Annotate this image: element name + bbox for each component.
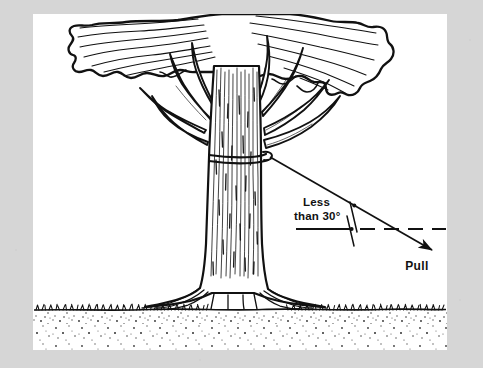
soil-surface-speckle <box>33 311 447 324</box>
ground-line <box>34 309 446 310</box>
tree-pull-angle-illustration: Less than 30° Pull <box>0 0 483 368</box>
pull-label: Pull <box>405 259 429 273</box>
angle-dot-on-pull-line <box>352 204 356 208</box>
angle-label-line2: than 30° <box>294 210 341 222</box>
angle-label-line1: Less <box>303 196 330 208</box>
angle-dot-on-reference-line <box>350 227 354 231</box>
figure-root: Less than 30° Pull <box>0 0 483 368</box>
